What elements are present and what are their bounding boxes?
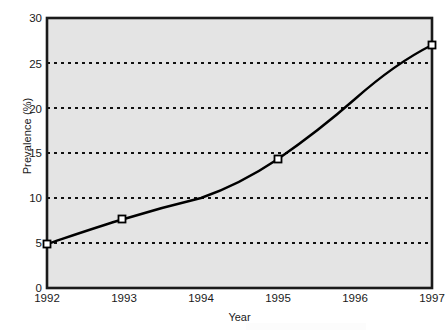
- x-tick-label-1992: 1992: [17, 293, 77, 305]
- data-point-1992: [44, 241, 51, 248]
- data-point-1995: [275, 156, 282, 163]
- x-tick-label-1997: 1997: [402, 293, 448, 305]
- x-tick-label-1993: 1993: [94, 293, 154, 305]
- data-point-1993: [119, 216, 126, 223]
- plot-area: [0, 0, 448, 334]
- scan-artifact: [246, 323, 366, 330]
- data-point-1997: [429, 42, 436, 49]
- x-tick-label-1996: 1996: [325, 293, 385, 305]
- x-tick-label-1994: 1994: [171, 293, 231, 305]
- chart-figure: 30 25 20 15 10 5 0 Prevalence (%): [0, 0, 448, 334]
- x-axis-title: Year: [47, 311, 432, 323]
- x-tick-label-1995: 1995: [248, 293, 308, 305]
